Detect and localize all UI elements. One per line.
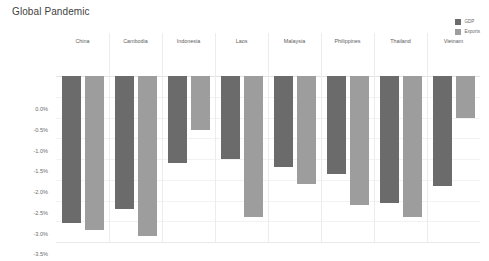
- y-axis: 0.0%-0.5%-1.0%-1.5%-2.0%-2.5%-3.0%-3.5%-…: [0, 33, 52, 243]
- chart-card: Global Pandemic GDPExports 0.0%-0.5%-1.0…: [0, 0, 489, 261]
- category-divider: [321, 33, 322, 243]
- x-axis-category-label: Vietnam: [444, 38, 464, 44]
- bar-exports-thailand[interactable]: [403, 76, 422, 217]
- y-axis-tick-label: -2.5%: [33, 210, 48, 216]
- x-axis-category-label: Laos: [236, 38, 248, 44]
- legend-entry[interactable]: GDP: [455, 18, 480, 25]
- bar-gdp-thailand[interactable]: [380, 76, 399, 203]
- bar-gdp-indonesia[interactable]: [168, 76, 187, 163]
- bar-gdp-cambodia[interactable]: [115, 76, 134, 209]
- bar-gdp-china[interactable]: [62, 76, 81, 223]
- category-divider: [427, 33, 428, 243]
- plot-area: ChinaCambodiaIndonesiaLaosMalaysiaPhilip…: [56, 33, 480, 243]
- y-axis-tick-label: -3.5%: [33, 251, 48, 257]
- bar-exports-philippines[interactable]: [350, 76, 369, 205]
- x-axis-category-label: China: [75, 38, 89, 44]
- category-divider: [109, 33, 110, 243]
- y-axis-tick-label: -1.5%: [33, 168, 48, 174]
- y-axis-tick-label: 0.0%: [35, 106, 48, 112]
- y-axis-tick-label: -0.5%: [33, 127, 48, 133]
- x-axis-category-label: Malaysia: [284, 38, 305, 44]
- bar-gdp-vietnam[interactable]: [433, 76, 452, 186]
- x-axis-category-label: Cambodia: [123, 38, 148, 44]
- bar-exports-indonesia[interactable]: [191, 76, 210, 130]
- category-divider: [268, 33, 269, 243]
- y-axis-tick-label: -3.0%: [33, 231, 48, 237]
- bar-gdp-malaysia[interactable]: [274, 76, 293, 167]
- x-axis-category-label: Indonesia: [177, 38, 200, 44]
- category-divider: [215, 33, 216, 243]
- bar-exports-malaysia[interactable]: [297, 76, 316, 184]
- bar-exports-laos[interactable]: [244, 76, 263, 217]
- y-axis-tick-label: -2.0%: [33, 189, 48, 195]
- bar-exports-cambodia[interactable]: [138, 76, 157, 236]
- bar-exports-vietnam[interactable]: [456, 76, 475, 118]
- bar-gdp-laos[interactable]: [221, 76, 240, 159]
- x-axis-category-label: Philippines: [334, 38, 360, 44]
- y-axis-tick-label: -1.0%: [33, 148, 48, 154]
- bar-exports-china[interactable]: [85, 76, 104, 230]
- bar-gdp-philippines[interactable]: [327, 76, 346, 174]
- legend-swatch-icon: [455, 19, 461, 25]
- x-axis-category-label: Thailand: [390, 38, 411, 44]
- category-divider: [374, 33, 375, 243]
- category-divider: [162, 33, 163, 243]
- chart-title: Global Pandemic: [12, 6, 90, 17]
- legend-label: GDP: [464, 18, 474, 25]
